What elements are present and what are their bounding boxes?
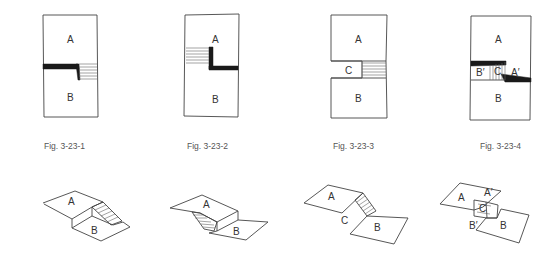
fig1-plan-label-a: A (67, 34, 74, 45)
fig3-isometric: A C B (304, 185, 408, 244)
fig1-isometric: A B (43, 191, 130, 241)
fig2-caption: Fig. 3-23-2 (187, 141, 228, 151)
fig2-plan-label-b: B (212, 94, 219, 105)
fig3-iso-label-b: B (374, 222, 381, 233)
diagram-canvas: A B Fig. 3-23-1 A B Fig. 3-23-2 (0, 0, 558, 256)
fig2-stairs-icon (186, 48, 209, 63)
fig2-iso-label-b: B (233, 226, 240, 237)
fig3-iso-stairs-icon (355, 193, 376, 216)
fig4-iso-label-b-prime: B′ (469, 220, 478, 231)
fig3-caption: Fig. 3-23-3 (333, 141, 374, 151)
fig3-plan-area-b (331, 61, 387, 118)
fig2-plan-label-a: A (212, 34, 219, 45)
fig4-iso-label-a-prime: A′ (484, 187, 493, 198)
fig4-plan-label-c: C (494, 66, 501, 77)
fig4-caption: Fig. 3-23-4 (480, 141, 521, 151)
fig1-level-edge (43, 64, 79, 69)
fig1-stairs-icon (79, 64, 97, 79)
fig4-iso-label-a: A (458, 192, 465, 203)
fig4-plan: A B′ C A′ B (470, 16, 531, 120)
fig4-isometric: A A′ C B′ B (440, 183, 529, 243)
fig1-level-edge-vertical (76, 64, 80, 80)
fig1-iso-label-b: B (91, 225, 98, 236)
fig4-plan-label-b: B (495, 93, 502, 104)
fig4-iso-label-b: B (500, 220, 507, 231)
fig2-level-edge (209, 66, 238, 70)
fig2-iso-label-a: A (203, 199, 210, 210)
fig3-plan-label-c: C (345, 65, 352, 76)
fig1-plan: A B (43, 15, 98, 117)
fig2-plan: A B (184, 14, 239, 117)
fig2-iso-stairs-icon (192, 212, 217, 231)
fig3-iso-label-c: C (341, 215, 348, 226)
fig4-plan-label-a-prime: A′ (511, 67, 520, 78)
fig4-plan-label-b-prime: B′ (476, 67, 485, 78)
fig1-iso-stairs-icon (92, 202, 122, 225)
fig2-level-edge-vertical (209, 47, 213, 69)
fig3-plan-label-b: B (355, 93, 362, 104)
fig4-plan-label-a: A (495, 34, 502, 45)
fig4-iso-label-c: C (479, 203, 486, 214)
fig1-caption: Fig. 3-23-1 (44, 141, 85, 151)
fig3-plan-label-a: A (355, 34, 362, 45)
fig1-iso-label-a: A (68, 196, 75, 207)
fig3-plan: A C B (331, 15, 387, 118)
fig3-stairs-icon (362, 61, 386, 78)
fig2-isometric: A B (170, 195, 268, 240)
fig1-plan-label-b: B (67, 92, 74, 103)
fig3-iso-label-a: A (328, 191, 335, 202)
